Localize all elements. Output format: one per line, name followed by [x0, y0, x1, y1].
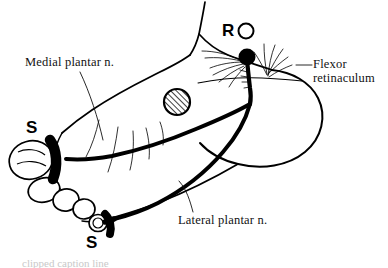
nerve-group [66, 49, 256, 223]
label-flexor-retinaculum: Flexorretinaculum [313, 58, 375, 85]
hatched-circle-marker [160, 85, 196, 121]
cuff-great-toe [50, 140, 56, 179]
label-flexor-line2: retinaculum [313, 71, 375, 85]
crease-4 [86, 120, 99, 157]
figure-caption-clipped: clipped caption line [22, 258, 352, 268]
crease-3 [146, 128, 149, 159]
leg-anterior-outline [190, 2, 205, 55]
leader-lines-group [80, 65, 312, 212]
recording-node [239, 49, 256, 66]
marker-letter-s-great-toe: S [26, 119, 37, 136]
foot-nerve-diagram [0, 0, 388, 268]
marker-letter-r-recording: R [222, 22, 234, 39]
r-legend-open-circle [239, 24, 254, 39]
figure-container: Medial plantar n. Lateral plantar n. Fle… [0, 0, 388, 268]
retinaculum-plume-1 [268, 45, 275, 76]
fifth-toe-inner [93, 218, 103, 228]
tibial-nerve-trunk [247, 60, 251, 104]
label-medial-plantar-nerve: Medial plantar n. [25, 56, 114, 70]
foot-outline-group [54, 2, 323, 222]
retinaculum-fiber-4 [229, 67, 245, 87]
crease-1 [108, 127, 118, 172]
label-flexor-line1: Flexor [313, 57, 347, 71]
ankle-top-outline [199, 34, 272, 70]
label-lateral-plantar-nerve: Lateral plantar n. [178, 214, 267, 228]
marker-letter-s-little-toe: S [86, 234, 97, 251]
lateral-plantar-distal-tip [105, 219, 114, 222]
